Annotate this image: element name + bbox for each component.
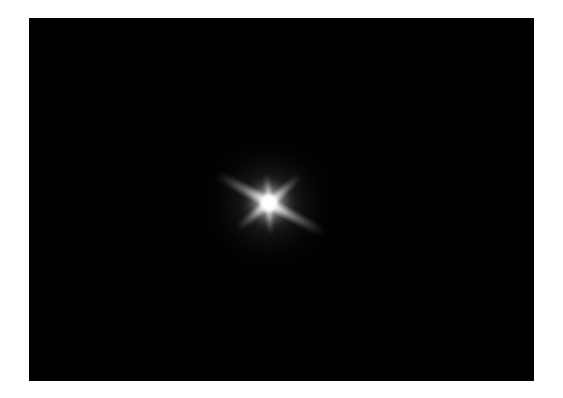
star-core (258, 193, 280, 213)
star-outer-glow (194, 128, 344, 278)
star-inner-glow (242, 178, 296, 228)
night-sky-field (29, 18, 534, 381)
photo-frame (0, 0, 563, 398)
